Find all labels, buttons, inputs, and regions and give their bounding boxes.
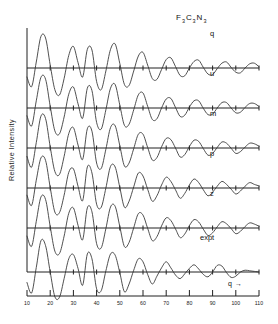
title-C-subscript: 3 [193, 18, 196, 24]
curve-p [27, 156, 259, 215]
curve-label-z: z [210, 189, 214, 198]
curve-m [27, 114, 259, 176]
x-tick-label: 110 [255, 300, 263, 306]
title-F: F [176, 13, 181, 22]
panel-expt: expt [27, 233, 259, 300]
x-tick-label: 70 [163, 300, 169, 306]
x-tick-label: 10 [24, 300, 30, 306]
x-tick-label: 50 [117, 300, 123, 306]
title-N: N [197, 13, 203, 22]
panel-p: p [27, 149, 259, 215]
title-F-subscript: 3 [182, 18, 185, 24]
x-tick-label: 90 [210, 300, 216, 306]
x-axis: 102030405060708090100110 q → [24, 280, 263, 306]
curve-label-p: p [210, 149, 214, 158]
diffraction-intensity-figure: F 3 C 3 N 3 Relative Intensity qumpzexpt… [0, 0, 278, 324]
x-tick-label: 20 [47, 300, 53, 306]
curve-label-u: u [210, 69, 214, 78]
panel-u: u [27, 69, 259, 135]
x-axis-arrow-icon: → [235, 280, 242, 287]
curve-q [27, 34, 259, 96]
curve-label-q: q [210, 29, 214, 38]
title-C: C [186, 13, 192, 22]
figure-title: F 3 C 3 N 3 [176, 13, 207, 24]
curve-label-expt: expt [200, 233, 215, 242]
panel-group: qumpzexpt [27, 29, 259, 300]
panel-z: z [27, 189, 259, 255]
panel-q: q [27, 29, 259, 96]
x-axis-ticks: 102030405060708090100110 [24, 290, 263, 306]
figure-container: F 3 C 3 N 3 Relative Intensity qumpzexpt… [0, 0, 278, 324]
y-axis-label: Relative Intensity [7, 119, 16, 181]
panel-m: m [27, 109, 259, 176]
x-tick-label: 40 [94, 300, 100, 306]
x-axis-label: q [228, 280, 232, 288]
x-tick-label: 100 [231, 300, 240, 306]
x-tick-label: 60 [140, 300, 146, 306]
title-N-subscript: 3 [204, 18, 207, 24]
x-tick-label: 80 [187, 300, 193, 306]
curve-label-m: m [210, 109, 216, 118]
x-tick-label: 30 [71, 300, 77, 306]
curve-u [27, 75, 259, 135]
